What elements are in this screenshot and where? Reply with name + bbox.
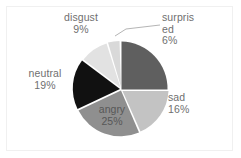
slice-label-surprised-line1: surpris [162, 12, 224, 24]
pie-slice-dark[interactable] [122, 42, 168, 90]
slice-label-sad-name: sad [168, 92, 220, 104]
slice-label-surprised-percent: 6% [162, 35, 224, 47]
slice-label-disgust-name: disgust [50, 12, 112, 24]
slice-label-disgust-percent: 9% [50, 24, 112, 36]
slice-label-angry-percent: 25% [88, 116, 136, 128]
slice-label-neutral-name: neutral [14, 68, 76, 80]
slice-label-angry-name: angry [88, 104, 136, 116]
leader-line-surprised [115, 25, 160, 36]
slice-label-neutral: neutral 19% [14, 68, 76, 91]
slice-label-angry: angry 25% [88, 104, 136, 127]
slice-label-disgust: disgust 9% [50, 12, 112, 35]
slice-label-sad-percent: 16% [168, 104, 220, 116]
slice-label-neutral-percent: 19% [14, 80, 76, 92]
slice-label-surprised: surpris ed 6% [162, 12, 224, 47]
slice-label-sad: sad 16% [168, 92, 220, 115]
